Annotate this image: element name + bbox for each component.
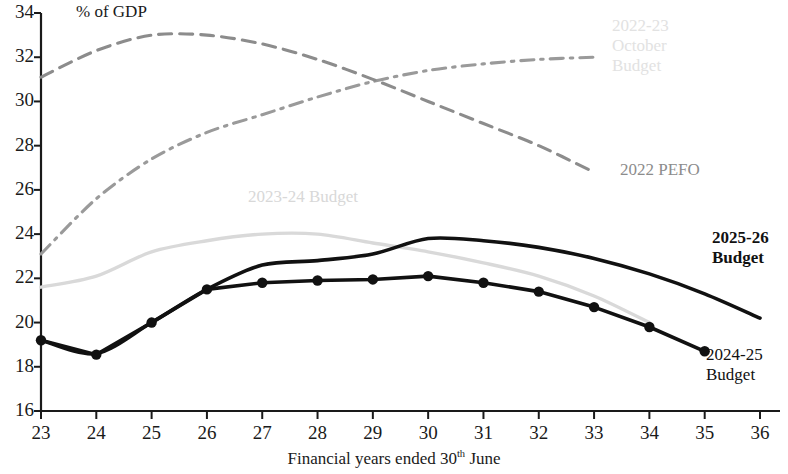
y-axis-tick-label: 20 — [0, 311, 34, 333]
annotation-2022-pefo: 2022 PEFO — [620, 160, 700, 180]
annotation-2025-26-line2: Budget — [712, 248, 769, 268]
annotation-oct-line1: 2022-23 — [612, 16, 669, 36]
y-axis-tick-label: 16 — [0, 399, 34, 421]
x-axis-title-pre: Financial years ended 30 — [287, 449, 456, 468]
series-line — [41, 34, 594, 173]
x-axis-tick-label: 33 — [574, 422, 614, 444]
y-axis-tick-label: 24 — [0, 222, 34, 244]
series-marker — [368, 274, 378, 284]
x-axis-title: Financial years ended 30th June — [0, 448, 788, 469]
y-axis-unit-label: % of GDP — [76, 2, 147, 22]
x-axis-tick-label: 23 — [21, 422, 61, 444]
annotation-oct-line2: October — [612, 36, 669, 56]
series-marker — [644, 322, 654, 332]
series-layer — [36, 34, 760, 360]
series-line — [41, 57, 594, 254]
series-2025-26-budget — [41, 238, 760, 354]
annotation-2025-26-budget: 2025-26 Budget — [712, 228, 769, 268]
x-axis-tick-label: 30 — [408, 422, 448, 444]
x-axis-tick-label: 31 — [463, 422, 503, 444]
series-2023-24-budget — [41, 233, 649, 322]
annotation-oct-line3: Budget — [612, 56, 669, 76]
annotation-2024-25-budget: 2024-25 Budget — [706, 345, 763, 385]
x-axis-tick-label: 25 — [132, 422, 172, 444]
y-axis-tick-label: 28 — [0, 134, 34, 156]
series-2024-25-budget — [36, 271, 710, 360]
x-axis-tick-label: 35 — [685, 422, 725, 444]
x-axis-tick-label: 27 — [242, 422, 282, 444]
series-marker — [257, 278, 267, 288]
series-marker — [202, 284, 212, 294]
series-marker — [312, 275, 322, 285]
x-axis-title-ordinal: th — [457, 448, 465, 459]
series-line — [41, 238, 760, 354]
annotation-2024-25-line1: 2024-25 — [706, 345, 763, 365]
y-axis-tick-label: 30 — [0, 89, 34, 111]
series-2022-23-october-budget — [41, 57, 594, 254]
series-marker — [146, 317, 156, 327]
x-axis-title-post: June — [465, 449, 500, 468]
series-marker — [36, 335, 46, 345]
x-axis-tick-label: 32 — [519, 422, 559, 444]
series-marker — [589, 302, 599, 312]
y-axis-tick-label: 34 — [0, 1, 34, 23]
series-line — [41, 233, 649, 322]
x-axis-tick-label: 24 — [76, 422, 116, 444]
x-axis-tick-label: 26 — [187, 422, 227, 444]
series-marker — [478, 278, 488, 288]
series-line — [41, 276, 705, 355]
chart-plot-area — [0, 0, 788, 474]
series-marker — [91, 349, 101, 359]
y-axis-tick-label: 18 — [0, 355, 34, 377]
chart-container: % of GDP 16182022242628303234 2324252627… — [0, 0, 788, 474]
annotation-2024-25-line2: Budget — [706, 365, 763, 385]
series-marker — [423, 271, 433, 281]
annotation-2025-26-line1: 2025-26 — [712, 228, 769, 248]
y-axis-tick-label: 26 — [0, 178, 34, 200]
y-axis-tick-label: 22 — [0, 266, 34, 288]
series-2022-pefo — [41, 34, 594, 173]
x-axis-tick-label: 28 — [298, 422, 338, 444]
y-axis-tick-label: 32 — [0, 45, 34, 67]
series-marker — [534, 286, 544, 296]
x-axis-tick-label: 29 — [353, 422, 393, 444]
annotation-2023-24-budget: 2023-24 Budget — [248, 187, 358, 207]
x-axis-tick-label: 34 — [629, 422, 669, 444]
x-axis-tick-label: 36 — [740, 422, 780, 444]
annotation-2022-23-october-budget: 2022-23 October Budget — [612, 16, 669, 76]
